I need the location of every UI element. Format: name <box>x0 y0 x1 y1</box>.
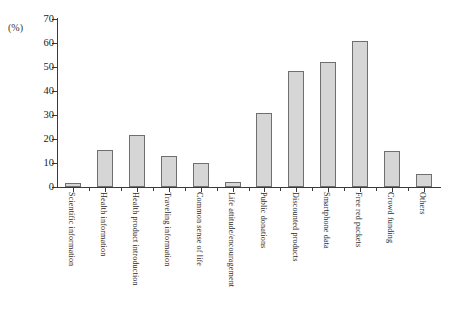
bar <box>352 41 368 187</box>
bar <box>256 113 272 187</box>
x-axis-minor-tick-mark <box>376 188 377 191</box>
y-axis-tick-label: 20 <box>44 132 55 145</box>
y-axis-tick-label: 30 <box>44 108 55 121</box>
y-axis-tick-label: 60 <box>44 36 55 49</box>
y-axis-tick-label: 40 <box>44 84 55 97</box>
x-axis-category-label: Discounted products <box>291 192 300 261</box>
y-axis-tick-label: 0 <box>49 180 54 193</box>
y-axis-tick-label: 50 <box>44 60 55 73</box>
x-axis-minor-tick-mark <box>344 188 345 191</box>
x-axis-category-label: Free red packets <box>354 192 363 247</box>
x-axis-minor-tick-mark <box>312 188 313 191</box>
bar <box>193 163 209 187</box>
bar <box>288 71 304 187</box>
x-axis-minor-tick-mark <box>185 188 186 191</box>
x-axis-minor-tick-mark <box>153 188 154 191</box>
bar <box>225 182 241 187</box>
x-axis-category-label: Health information <box>99 192 108 256</box>
x-axis-category-label: Smartphone data <box>322 192 331 249</box>
y-axis-title: (%) <box>8 22 23 33</box>
x-axis-minor-tick-mark <box>249 188 250 191</box>
x-axis-minor-tick-mark <box>121 188 122 191</box>
bar <box>97 150 113 187</box>
x-axis-category-label: Common sense of life <box>195 192 204 266</box>
x-axis-category-label: Crowd funding <box>386 192 395 243</box>
bar <box>129 135 145 187</box>
bar-chart: (%) 010203040506070 Scientific informati… <box>0 0 455 317</box>
x-axis-category-label: Traveling information <box>163 192 172 266</box>
bar <box>161 156 177 187</box>
x-axis-category-label: Others <box>418 192 427 214</box>
plot-area: 010203040506070 <box>57 19 440 187</box>
x-axis-minor-tick-mark <box>89 188 90 191</box>
x-axis-category-label: Life attitude/encouragement <box>227 192 236 287</box>
bar <box>416 174 432 187</box>
y-axis-tick-label: 70 <box>44 12 55 25</box>
x-axis-minor-tick-mark <box>408 188 409 191</box>
y-axis-tick-label: 10 <box>44 156 55 169</box>
x-axis-minor-tick-mark <box>217 188 218 191</box>
x-axis-category-label: Scientific information <box>67 192 76 266</box>
x-axis-minor-tick-mark <box>280 188 281 191</box>
bar <box>384 151 400 187</box>
bar <box>65 183 81 187</box>
bar <box>320 62 336 187</box>
x-axis-category-label: Health product introduction <box>131 192 140 286</box>
x-axis-category-label: Public donations <box>259 192 268 248</box>
